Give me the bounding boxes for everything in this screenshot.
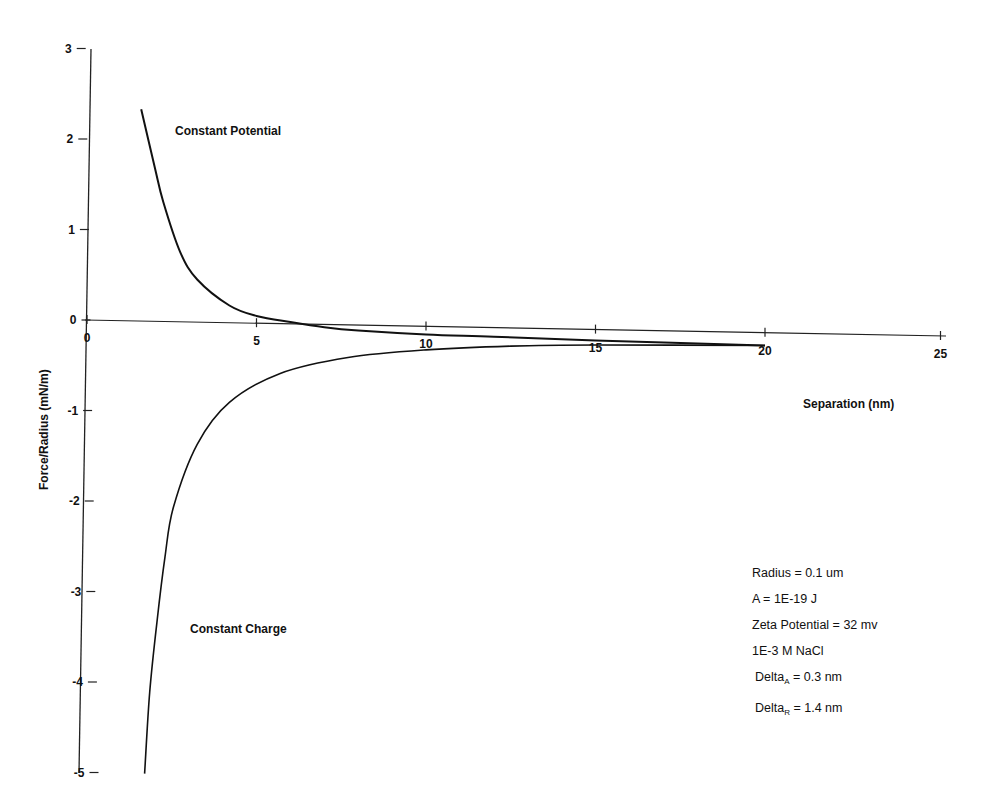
x-tick-label: 15 <box>589 341 603 355</box>
constant-charge-curve <box>145 345 765 774</box>
y-axis-ticks: 3210-1-2-3-4-5 <box>65 42 98 780</box>
x-axis <box>85 320 946 336</box>
delta-a-prefix: Delta <box>755 670 784 684</box>
hamaker-annotation: A = 1E-19 J <box>752 586 877 612</box>
y-tick-label: -2 <box>69 494 80 508</box>
constant-charge-label: Constant Charge <box>190 622 287 636</box>
y-tick-label: 0 <box>70 313 77 327</box>
x-tick-label: 25 <box>934 347 948 361</box>
y-tick-label: -3 <box>71 585 82 599</box>
x-tick-label: 5 <box>253 334 260 348</box>
salt-annotation: 1E-3 M NaCl <box>752 638 877 664</box>
delta-r-value: = 1.4 nm <box>790 701 842 715</box>
delta-a-value: = 0.3 nm <box>790 670 842 684</box>
constant-potential-label: Constant Potential <box>175 124 281 138</box>
x-axis-title: Separation (nm) <box>803 397 894 411</box>
delta-r-annotation: DeltaR = 1.4 nm <box>752 695 877 726</box>
y-tick-label: 1 <box>68 223 75 237</box>
parameter-annotation-box: Radius = 0.1 um A = 1E-19 J Zeta Potenti… <box>752 560 877 726</box>
y-tick-label: -1 <box>67 404 78 418</box>
x-tick-label: 0 <box>84 331 91 345</box>
delta-a-annotation: DeltaA = 0.3 nm <box>752 664 877 695</box>
delta-r-prefix: Delta <box>755 701 784 715</box>
radius-annotation: Radius = 0.1 um <box>752 560 877 586</box>
y-tick-label: -5 <box>74 766 85 780</box>
y-axis-title: Force/Radius (mN/m) <box>37 369 51 490</box>
zeta-annotation: Zeta Potential = 32 mv <box>752 612 877 638</box>
y-tick-label: 3 <box>65 42 72 56</box>
y-tick-label: -4 <box>72 675 83 689</box>
y-tick-label: 2 <box>67 132 74 146</box>
constant-potential-curve <box>141 109 765 345</box>
